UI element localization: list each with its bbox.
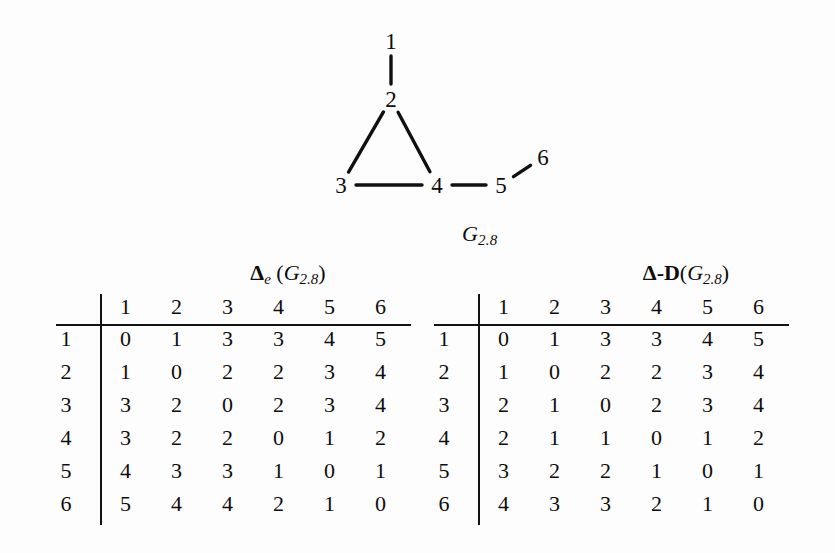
matrix-left-row-header-3: 3 bbox=[46, 394, 86, 416]
matrix-right-body: 1013345210223432102344211012532210164332… bbox=[424, 322, 804, 520]
matrix-left-row-header-2: 2 bbox=[46, 361, 86, 383]
matrix-left-cell-3-1: 3 bbox=[100, 394, 151, 416]
graph-edge-2-3 bbox=[349, 112, 384, 172]
matrix-left-cell-5-4: 1 bbox=[253, 460, 304, 482]
matrix-left-row-header-1: 1 bbox=[46, 328, 86, 350]
matrix-right-row: 5322101 bbox=[424, 454, 804, 487]
matrix-left-row: 1013345 bbox=[46, 322, 426, 355]
matrix-left-cell-4-3: 2 bbox=[202, 427, 253, 449]
matrix-right-cell-4-6: 2 bbox=[733, 427, 784, 449]
graph-node-4: 4 bbox=[431, 174, 443, 197]
matrix-right-cell-3-6: 4 bbox=[733, 394, 784, 416]
graph-node-3: 3 bbox=[335, 174, 347, 197]
matrix-left-cell-6-6: 0 bbox=[355, 493, 406, 515]
matrix-left-col-header-3: 3 bbox=[202, 296, 253, 318]
matrix-right-cell-3-4: 2 bbox=[631, 394, 682, 416]
matrix-left-row-header-6: 6 bbox=[46, 493, 86, 515]
title-close-paren: ) bbox=[722, 260, 729, 285]
matrix-right-cell-5-2: 2 bbox=[529, 460, 580, 482]
matrix-right-cell-5-6: 1 bbox=[733, 460, 784, 482]
matrix-right-row: 6433210 bbox=[424, 487, 804, 520]
matrix-right-cell-2-1: 1 bbox=[478, 361, 529, 383]
matrix-left-cell-5-6: 1 bbox=[355, 460, 406, 482]
matrix-right-cell-2-4: 2 bbox=[631, 361, 682, 383]
graph-caption-subscript: 2.8 bbox=[478, 232, 497, 248]
matrix-left-cell-5-5: 0 bbox=[304, 460, 355, 482]
matrix-right-col-headers: 123456 bbox=[478, 296, 784, 318]
title-close-paren: ) bbox=[318, 260, 325, 285]
matrix-right-cell-1-6: 5 bbox=[733, 328, 784, 350]
matrix-right-cell-6-1: 4 bbox=[478, 493, 529, 515]
title-graph-subscript: 2.8 bbox=[703, 271, 722, 287]
matrix-right-cell-2-6: 4 bbox=[733, 361, 784, 383]
matrix-left-cell-4-5: 1 bbox=[304, 427, 355, 449]
matrix-right-cell-5-4: 1 bbox=[631, 460, 682, 482]
matrix-right-cell-1-5: 4 bbox=[682, 328, 733, 350]
matrix-right-header-row: 123456 bbox=[424, 292, 804, 322]
matrix-right-cell-2-3: 2 bbox=[580, 361, 631, 383]
matrix-right-cell-5-1: 3 bbox=[478, 460, 529, 482]
matrix-left-vertical-rule bbox=[100, 294, 102, 525]
graph-caption-text: G bbox=[462, 221, 478, 246]
matrix-right-vertical-rule bbox=[478, 294, 480, 525]
matrix-left-cell-6-2: 4 bbox=[151, 493, 202, 515]
matrix-right-row-header-2: 2 bbox=[424, 361, 464, 383]
delta-subscript-e: e bbox=[264, 271, 271, 287]
graph-node-5: 5 bbox=[495, 174, 507, 197]
matrix-left-grid: 123456 101334521022343320234432201254331… bbox=[46, 292, 426, 520]
matrix-right-cell-4-4: 0 bbox=[631, 427, 682, 449]
matrix-left-cell-5-3: 3 bbox=[202, 460, 253, 482]
graph-node-2: 2 bbox=[385, 88, 397, 111]
matrix-right-col-header-3: 3 bbox=[580, 296, 631, 318]
matrix-right-col-header-1: 1 bbox=[478, 296, 529, 318]
matrix-right-cell-6-5: 1 bbox=[682, 493, 733, 515]
graph-figure: 123456 G2.8 bbox=[0, 0, 835, 262]
matrix-right-row-header-1: 1 bbox=[424, 328, 464, 350]
matrix-right-cell-6-3: 3 bbox=[580, 493, 631, 515]
matrix-left-horizontal-rule bbox=[56, 324, 411, 326]
matrix-right-cell-1-4: 3 bbox=[631, 328, 682, 350]
title-D-symbol: D bbox=[664, 260, 680, 285]
title-graph-symbol: G bbox=[284, 260, 300, 285]
page-canvas: 123456 G2.8 Δe (G2.8) 123456 10133452102… bbox=[0, 0, 835, 553]
matrix-left-cell-3-6: 4 bbox=[355, 394, 406, 416]
graph-edge-2-4 bbox=[398, 112, 430, 172]
matrix-left-cell-1-6: 5 bbox=[355, 328, 406, 350]
matrix-left-cell-3-4: 2 bbox=[253, 394, 304, 416]
matrix-left-cell-2-3: 2 bbox=[202, 361, 253, 383]
matrix-right-horizontal-rule bbox=[434, 324, 789, 326]
matrix-right-row: 4211012 bbox=[424, 421, 804, 454]
matrix-right-grid: 123456 101334521022343210234421101253221… bbox=[424, 292, 804, 520]
delta-symbol: Δ bbox=[250, 260, 264, 285]
matrix-left-cell-1-3: 3 bbox=[202, 328, 253, 350]
matrix-right-cell-2-5: 3 bbox=[682, 361, 733, 383]
matrix-left-cell-2-6: 4 bbox=[355, 361, 406, 383]
matrix-left-cell-2-4: 2 bbox=[253, 361, 304, 383]
matrix-right-cell-4-3: 1 bbox=[580, 427, 631, 449]
matrix-right-cell-1-1: 0 bbox=[478, 328, 529, 350]
matrix-left-cell-4-2: 2 bbox=[151, 427, 202, 449]
matrix-right-col-header-2: 2 bbox=[529, 296, 580, 318]
graph-node-1: 1 bbox=[385, 30, 397, 53]
matrix-left-cell-1-2: 1 bbox=[151, 328, 202, 350]
matrix-left-col-header-6: 6 bbox=[355, 296, 406, 318]
matrix-left-cell-5-1: 4 bbox=[100, 460, 151, 482]
matrix-left-cell-4-6: 2 bbox=[355, 427, 406, 449]
matrix-left-cell-6-3: 4 bbox=[202, 493, 253, 515]
matrix-left-col-header-5: 5 bbox=[304, 296, 355, 318]
matrix-left-cell-1-1: 0 bbox=[100, 328, 151, 350]
matrix-left-cell-3-5: 3 bbox=[304, 394, 355, 416]
matrix-right-col-header-4: 4 bbox=[631, 296, 682, 318]
matrix-left-cell-3-2: 2 bbox=[151, 394, 202, 416]
matrix-left-row-header-4: 4 bbox=[46, 427, 86, 449]
matrix-right-title: Δ-D(G2.8) bbox=[424, 262, 835, 287]
matrix-right-cell-1-3: 3 bbox=[580, 328, 631, 350]
matrix-left-col-headers: 123456 bbox=[100, 296, 406, 318]
matrix-left-cell-4-4: 0 bbox=[253, 427, 304, 449]
matrix-left-row-header-5: 5 bbox=[46, 460, 86, 482]
matrix-left-col-header-4: 4 bbox=[253, 296, 304, 318]
matrix-right-cell-5-5: 0 bbox=[682, 460, 733, 482]
matrix-left-cell-5-2: 3 bbox=[151, 460, 202, 482]
matrix-right-cell-6-4: 2 bbox=[631, 493, 682, 515]
matrix-left-row: 6544210 bbox=[46, 487, 426, 520]
